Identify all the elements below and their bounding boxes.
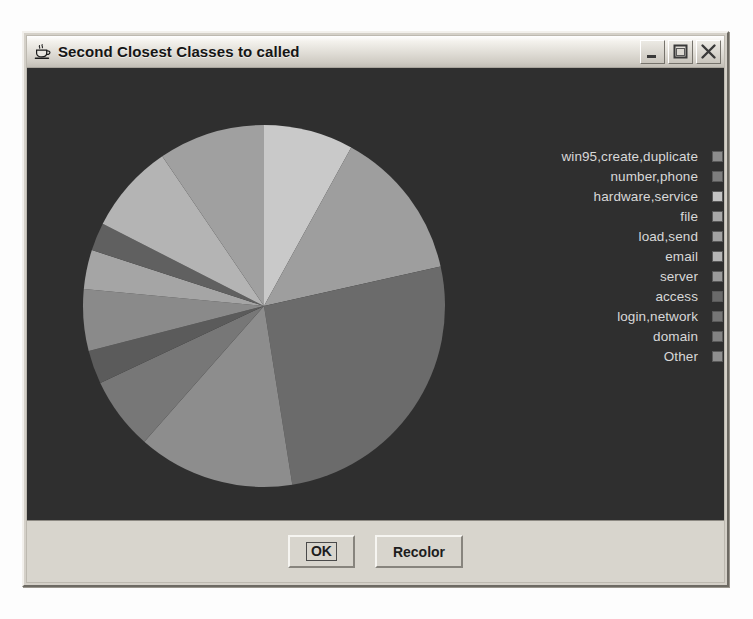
legend-swatch [712,291,723,302]
legend-swatch [712,271,723,282]
legend-rows: win95,create,duplicatenumber,phonehardwa… [503,146,723,366]
dialog-window: Second Closest Classes to called [22,31,729,587]
recolor-button-label: Recolor [393,544,445,560]
window-title: Second Closest Classes to called [58,43,640,60]
legend-item-label: login,network [503,309,698,324]
legend-item: load,send [503,226,723,246]
minimize-icon[interactable] [640,40,665,64]
legend-item-label: hardware,service [503,189,698,204]
legend-item: server [503,266,723,286]
dialog-button-panel: OK Recolor [27,520,724,582]
pie-slice-group [83,125,445,487]
legend-swatch [712,251,723,262]
legend-item-label: email [503,249,698,264]
legend-item-label: load,send [503,229,698,244]
ok-button[interactable]: OK [288,535,355,568]
close-icon[interactable] [696,40,721,64]
legend-item: domain [503,326,723,346]
legend-item: file [503,206,723,226]
legend-item-label: access [503,289,698,304]
legend-swatch [712,191,723,202]
chart-canvas: win95,create,duplicatenumber,phonehardwa… [27,68,724,520]
screen: Second Closest Classes to called [0,0,753,619]
legend-item-label: server [503,269,698,284]
legend-item: access [503,286,723,306]
legend-item-label: Other [503,349,698,364]
recolor-button[interactable]: Recolor [375,535,463,568]
legend-item-label: file [503,209,698,224]
legend-item-label: win95,create,duplicate [503,149,698,164]
legend-item: Other [503,346,723,366]
legend-item: hardware,service [503,186,723,206]
java-coffee-cup-icon [33,42,53,62]
legend-swatch [712,211,723,222]
maximize-icon[interactable] [668,40,693,64]
legend-item-label: domain [503,329,698,344]
legend-swatch [712,231,723,242]
titlebar: Second Closest Classes to called [27,36,724,68]
ok-button-label: OK [306,542,337,561]
legend-item: win95,create,duplicate [503,146,723,166]
legend-swatch [712,171,723,182]
legend-item: number,phone [503,166,723,186]
legend-item-label: number,phone [503,169,698,184]
legend-item: login,network [503,306,723,326]
window-controls [640,40,721,64]
legend-swatch [712,151,723,162]
legend-swatch [712,331,723,342]
window-inner-frame: Second Closest Classes to called [26,35,725,583]
pie-chart-svg [79,121,449,491]
legend-swatch [712,311,723,322]
pie-chart [79,121,449,491]
legend-swatch [712,351,723,362]
legend-item: email [503,246,723,266]
chart-legend: win95,create,duplicatenumber,phonehardwa… [503,146,723,366]
